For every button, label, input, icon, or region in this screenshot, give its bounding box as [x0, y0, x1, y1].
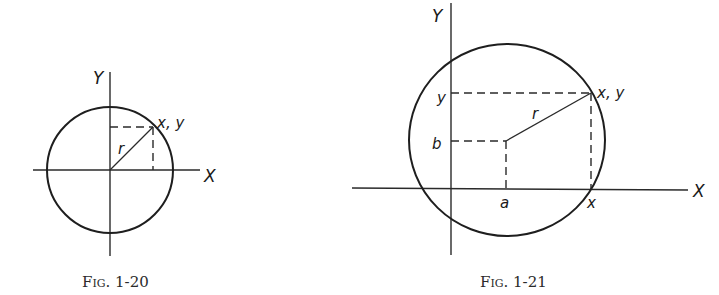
figure-caption: Fig. 1-21 — [480, 273, 547, 291]
radius-line — [110, 127, 153, 170]
radius-line — [506, 93, 591, 141]
radius-label: r — [118, 140, 125, 158]
y-axis-label: Y — [93, 68, 105, 88]
a-tick-label: a — [500, 194, 509, 212]
figures-canvas: Y X x, y r Fig. 1-20 Y y b a x X x, y r … — [0, 0, 719, 295]
y-tick-label: y — [436, 89, 447, 107]
point-label: x, y — [596, 84, 625, 102]
b-tick-label: b — [432, 135, 442, 153]
x-axis-label: X — [203, 166, 216, 186]
x-axis-label: X — [692, 181, 705, 201]
figure-1-20: Y X x, y r Fig. 1-20 — [33, 68, 216, 291]
figure-1-21: Y y b a x X x, y r Fig. 1-21 — [352, 3, 705, 291]
y-axis-label: Y — [432, 6, 444, 26]
x-axis — [352, 188, 688, 190]
point-label: x, y — [156, 114, 185, 132]
radius-label: r — [532, 105, 539, 123]
x-tick-label: x — [586, 194, 596, 212]
figure-caption: Fig. 1-20 — [82, 273, 149, 291]
